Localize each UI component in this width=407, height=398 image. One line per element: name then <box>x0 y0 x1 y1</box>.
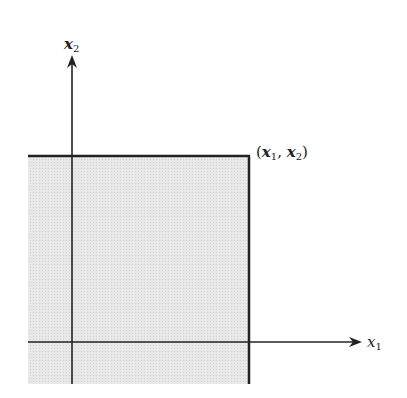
x1-sub: 1 <box>375 341 381 352</box>
x2-sub: 2 <box>73 43 79 54</box>
diagram-svg <box>0 0 407 398</box>
point-var1: x <box>262 143 271 161</box>
x1-axis-label: x1 <box>367 333 382 352</box>
comma: , <box>277 143 287 161</box>
shaded-region <box>28 156 249 384</box>
x2-var: x <box>64 35 73 53</box>
point-var2: x <box>287 143 296 161</box>
x2-axis-label: x2 <box>64 35 79 54</box>
corner-point-label: (x1, x2) <box>256 143 308 162</box>
diagram-canvas: x2 x1 (x1, x2) <box>0 0 407 398</box>
paren-close: ) <box>302 143 308 161</box>
